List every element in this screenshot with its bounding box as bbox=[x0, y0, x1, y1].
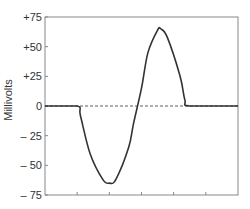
y-axis-title: Millivolts bbox=[2, 79, 14, 121]
waveform-chart: +75+50+250– 25– 50– 75 Millivolts bbox=[0, 0, 250, 209]
y-tick-label: +50 bbox=[23, 41, 42, 53]
y-tick-label: – 50 bbox=[21, 159, 42, 171]
y-tick-label: +25 bbox=[23, 70, 42, 82]
y-tick-label: 0 bbox=[36, 100, 42, 112]
y-axis-ticks: +75+50+250– 25– 50– 75 bbox=[21, 11, 48, 201]
y-tick-label: +75 bbox=[23, 11, 42, 23]
y-tick-label: – 75 bbox=[21, 189, 42, 201]
waveform-line bbox=[45, 28, 238, 184]
y-tick-label: – 25 bbox=[21, 130, 42, 142]
